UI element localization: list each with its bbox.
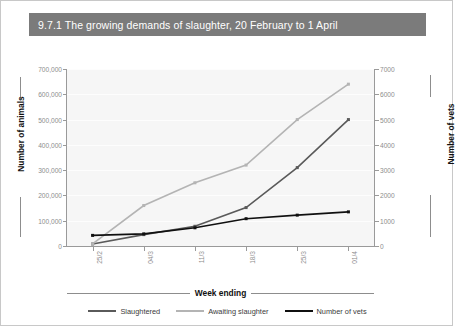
series-marker <box>296 214 299 217</box>
legend-label: Awaiting slaughter <box>208 307 268 316</box>
y-axis-right-tick-label: 6000 <box>380 91 395 98</box>
x-axis-title-rule-right <box>251 293 374 294</box>
series-marker <box>347 210 350 213</box>
y-axis-left-title-rule-bottom <box>20 197 21 237</box>
x-axis-spine <box>66 246 375 247</box>
y-axis-left-tick <box>63 94 67 95</box>
y-axis-left-ticklabels: 0100,000200,000300,000400,000500,000600,… <box>1 47 62 326</box>
chart-title-band: 9.7.1 The growing demands of slaughter, … <box>29 13 426 36</box>
series-marker <box>245 164 248 167</box>
y-axis-right-tick-label: 5000 <box>380 116 395 123</box>
legend-swatch <box>88 310 116 312</box>
chart-area: 0100,000200,000300,000400,000500,000600,… <box>1 47 454 326</box>
series-line <box>93 84 349 244</box>
y-axis-right-tick <box>375 145 379 146</box>
series-marker <box>296 166 299 169</box>
x-axis-title-rule-left <box>67 293 190 294</box>
y-axis-right-ticklabels: 01000200030004000500060007000 <box>380 47 420 326</box>
y-axis-right-tick-label: 0 <box>380 243 384 250</box>
x-axis-tick <box>144 247 145 251</box>
y-axis-right-tick <box>375 94 379 95</box>
legend-label: Number of vets <box>317 307 367 316</box>
y-axis-left-tick <box>63 69 67 70</box>
x-axis-tick-label: 18/3 <box>249 251 256 264</box>
x-axis-tick-label: 11/3 <box>198 251 205 263</box>
legend-item[interactable]: Number of vets <box>285 307 367 316</box>
x-axis-tick <box>195 247 196 251</box>
x-axis-title-wrap: Week ending <box>67 287 374 299</box>
plot-region <box>67 69 374 246</box>
series-line <box>93 120 349 244</box>
y-axis-right-title-rule-bottom <box>430 195 431 237</box>
series-lines <box>67 69 374 246</box>
x-axis-tick-label: 04/3 <box>147 251 154 264</box>
y-axis-right-title-rule-top <box>430 75 431 97</box>
x-axis-tick <box>246 247 247 251</box>
x-axis-tick <box>93 247 94 251</box>
series-marker <box>142 204 145 207</box>
x-axis-tick <box>348 247 349 251</box>
y-axis-right-title: Number of vets <box>446 74 456 194</box>
y-axis-left-tick-label: 300,000 <box>38 167 62 174</box>
y-axis-right-tick <box>375 195 379 196</box>
page-title: 9.7.1 The growing demands of slaughter, … <box>38 19 338 31</box>
y-axis-right-tick <box>375 246 379 247</box>
series-marker <box>193 181 196 184</box>
y-axis-left-tick-label: 500,000 <box>38 116 62 123</box>
y-axis-left-tick-label: 100,000 <box>38 217 62 224</box>
y-axis-left-tick <box>63 170 67 171</box>
y-axis-right-tick-label: 4000 <box>380 141 395 148</box>
y-axis-left-tick-label: 0 <box>58 243 62 250</box>
series-marker <box>142 232 145 235</box>
legend-item[interactable]: Slaughtered <box>88 307 160 316</box>
series-marker <box>347 118 350 121</box>
y-axis-right-tick-label: 3000 <box>380 167 395 174</box>
y-axis-right-tick <box>375 69 379 70</box>
series-marker <box>91 234 94 237</box>
y-axis-left-tick <box>63 120 67 121</box>
series-marker <box>296 118 299 121</box>
chart-legend: SlaughteredAwaiting slaughterNumber of v… <box>1 303 454 319</box>
series-marker <box>347 83 350 86</box>
series-marker <box>245 206 248 209</box>
y-axis-right-tick-label: 2000 <box>380 192 395 199</box>
series-marker <box>245 217 248 220</box>
y-axis-left-tick <box>63 145 67 146</box>
y-axis-left-tick-label: 600,000 <box>38 91 62 98</box>
legend-swatch <box>176 310 204 312</box>
x-axis-tick-label: 01/4 <box>351 251 358 264</box>
x-axis-tick-label: 25/2 <box>96 251 103 264</box>
y-axis-left-tick-label: 700,000 <box>38 66 62 73</box>
y-axis-left-tick <box>63 246 67 247</box>
legend-label: Slaughtered <box>120 307 160 316</box>
y-axis-right-tick <box>375 120 379 121</box>
series-marker <box>193 226 196 229</box>
y-axis-left-title: Number of animals <box>16 74 26 194</box>
y-axis-right-tick-label: 1000 <box>380 217 395 224</box>
x-axis-tick-label: 25/3 <box>300 251 307 264</box>
y-axis-right-tick <box>375 170 379 171</box>
x-axis-tick <box>297 247 298 251</box>
x-axis-title: Week ending <box>190 288 252 298</box>
y-axis-left-tick <box>63 195 67 196</box>
y-axis-left-tick-label: 400,000 <box>38 141 62 148</box>
y-axis-left-tick-label: 200,000 <box>38 192 62 199</box>
legend-swatch <box>285 310 313 312</box>
y-axis-right-tick-label: 7000 <box>380 66 395 73</box>
y-axis-right-tick <box>375 221 379 222</box>
y-axis-left-tick <box>63 221 67 222</box>
legend-item[interactable]: Awaiting slaughter <box>176 307 268 316</box>
